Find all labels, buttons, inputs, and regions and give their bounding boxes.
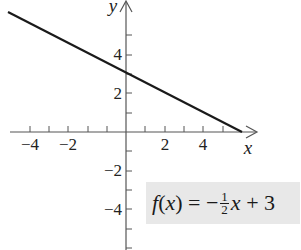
function-formula: f(x) = − 1 2 x + 3: [152, 186, 275, 220]
y-tick-label: −4: [104, 200, 123, 219]
function-line: [8, 12, 242, 132]
formula-lhs: f(x) = −: [152, 190, 218, 216]
x-tick-label: 4: [199, 135, 208, 154]
formula-fraction: 1 2: [220, 191, 229, 216]
formula-variable: x: [231, 190, 241, 216]
fraction-denominator: 2: [221, 204, 228, 216]
y-ticks: [126, 35, 132, 248]
x-tick-label: −2: [59, 135, 77, 154]
y-axis-label: y: [107, 0, 118, 16]
formula-rhs: + 3: [241, 190, 275, 216]
y-tick-label: −2: [104, 161, 122, 180]
y-tick-label: 4: [114, 45, 123, 64]
y-tick-label: 2: [114, 84, 123, 103]
x-axis-label: x: [243, 137, 253, 158]
x-tick-label: −4: [21, 135, 40, 154]
x-tick-label: 2: [161, 135, 170, 154]
